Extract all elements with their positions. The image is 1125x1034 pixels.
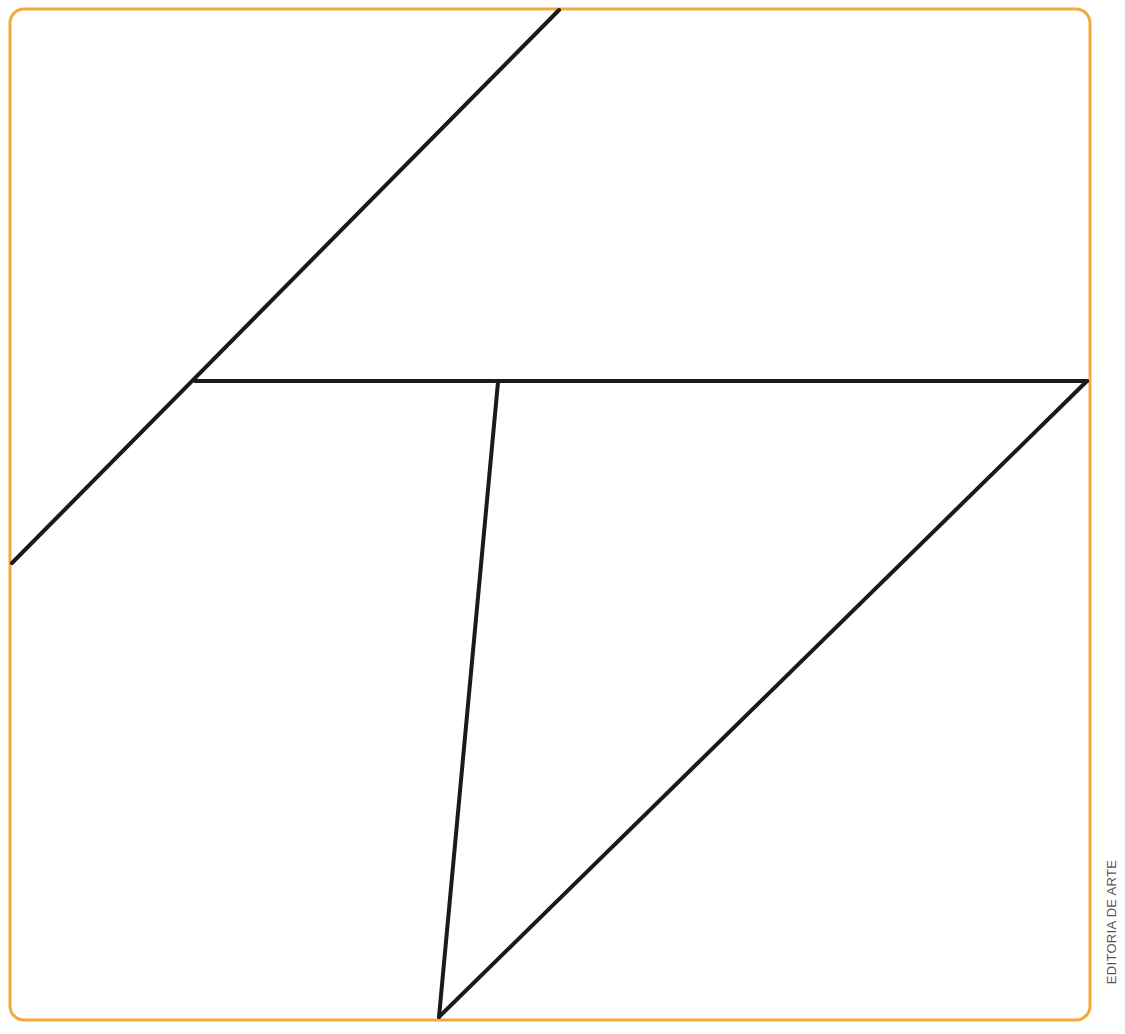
dividing-lines bbox=[12, 10, 1087, 1017]
image-credit: EDITORIA DE ARTE bbox=[1104, 860, 1119, 984]
line-diagonal-lower-right bbox=[439, 381, 1087, 1017]
geometric-figure bbox=[0, 0, 1125, 1034]
square-border bbox=[10, 9, 1090, 1020]
line-diagonal-upper-left bbox=[12, 10, 559, 563]
line-near-vertical-center bbox=[439, 382, 498, 1017]
